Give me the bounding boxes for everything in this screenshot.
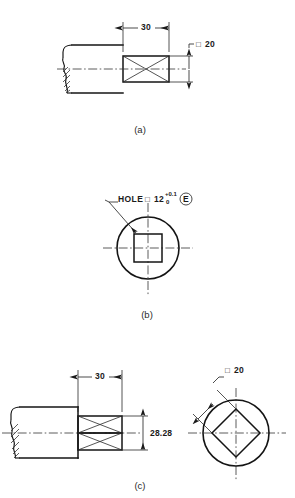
- figure-label-c: (c): [134, 480, 145, 491]
- envelope-symbol-e: E: [183, 194, 189, 204]
- figure-label-a: (a): [134, 124, 146, 135]
- note-value-12: 12: [154, 194, 164, 204]
- dimension-30-c: 30: [78, 369, 122, 412]
- dim-30-c-text: 30: [95, 371, 105, 381]
- dimension-30-a: 30: [123, 20, 169, 52]
- hole-note-b: HOLE □ 12 +0.1 0 E: [118, 191, 192, 205]
- dim-30-a-text: 30: [141, 22, 151, 32]
- dimension-sq20-a: □ 20: [169, 39, 215, 82]
- end-view-c: [188, 388, 286, 480]
- tolerance-lower: 0: [166, 199, 170, 205]
- square-symbol-c: □: [225, 366, 230, 375]
- square-symbol-a: □: [196, 40, 201, 49]
- square-symbol-b: □: [145, 195, 150, 204]
- shaft-outline-c: [11, 407, 78, 458]
- dim-20-a-text: 20: [205, 39, 215, 49]
- figure-b: HOLE □ 12 +0.1 0 E (b): [103, 191, 193, 320]
- note-hole-label: HOLE: [118, 194, 143, 204]
- figure-c: 30 28.28 □ 20 (c): [2, 365, 286, 491]
- section-hatch-a: [63, 67, 70, 93]
- tolerance-upper: +0.1: [165, 191, 178, 197]
- leader-b: [105, 200, 136, 233]
- figure-a: 30 □ 20 (a): [57, 20, 215, 135]
- dim-20-c-text: 20: [234, 365, 244, 375]
- engineering-drawing-sheet: 30 □ 20 (a) HOLE □ 1: [0, 0, 295, 498]
- figure-label-b: (b): [141, 309, 153, 320]
- dim-2828-text: 28.28: [150, 428, 172, 438]
